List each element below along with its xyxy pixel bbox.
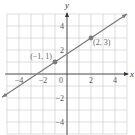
y-tick-label: 2: [60, 46, 64, 55]
line-arrow-start-icon: [2, 93, 7, 97]
coordinate-plane-chart: x y −4−202442−2−4 (−1, 1)(2, 3): [0, 0, 135, 135]
x-tick-label: 2: [89, 76, 93, 85]
axes: x y: [5, 0, 134, 135]
x-tick-label: −2: [39, 76, 48, 85]
y-tick-label: 4: [60, 22, 64, 31]
x-tick-label: 0: [59, 76, 63, 85]
x-axis-arrow-icon: [124, 72, 129, 76]
series: [2, 14, 127, 97]
x-axis-label: x: [129, 69, 134, 79]
data-point-label: (−1, 1): [30, 52, 52, 61]
y-axis-label: y: [64, 0, 69, 10]
y-tick-label: −4: [55, 118, 64, 127]
y-tick-label: −2: [55, 94, 64, 103]
data-point: [53, 60, 58, 65]
x-tick-label: 4: [113, 76, 117, 85]
series-line: [2, 14, 127, 97]
data-point-label: (2, 3): [93, 38, 111, 47]
line-arrow-end-icon: [122, 14, 127, 18]
y-axis-arrow-icon: [65, 12, 69, 17]
